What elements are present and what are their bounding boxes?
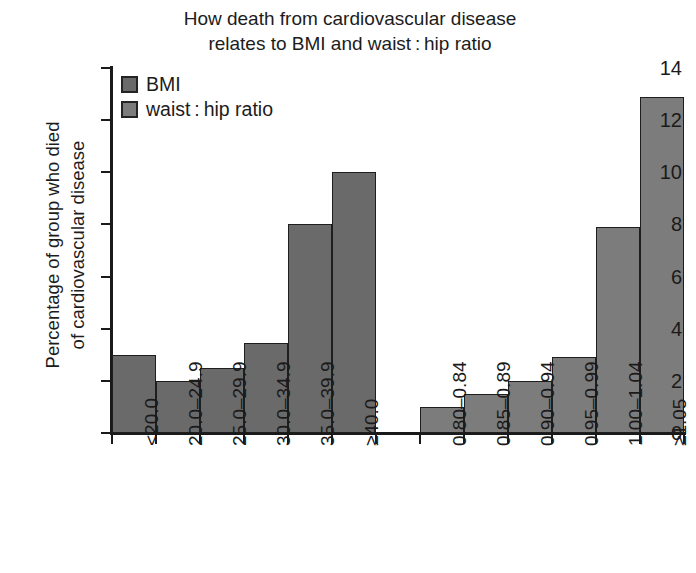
y-axis-tick: [101, 223, 112, 225]
legend-item: BMI: [121, 72, 273, 97]
chart-title: How death from cardiovascular disease re…: [80, 6, 620, 56]
y-axis-title: Percentage of group who died of cardiova…: [40, 45, 90, 445]
y-axis-tick-label: 14: [660, 58, 682, 78]
y-axis-tick-label: 8: [671, 214, 682, 234]
x-axis-tick-label: 30.0–34.9: [274, 361, 293, 446]
x-axis-tick-label: 25.0–29.9: [230, 361, 249, 446]
legend-item: waist : hip ratio: [121, 97, 273, 122]
chart-title-line-2: relates to BMI and waist : hip ratio: [80, 31, 620, 56]
y-axis-tick-label: 10: [660, 162, 682, 182]
y-axis-tick-label: 2: [671, 371, 682, 391]
legend-swatch-icon: [121, 76, 138, 93]
legend-swatch-icon: [121, 101, 138, 118]
x-axis-tick: [111, 433, 113, 444]
legend-label: BMI: [146, 75, 181, 95]
y-axis-tick: [101, 119, 112, 121]
y-axis-tick-label: 12: [660, 110, 682, 130]
legend-label: waist : hip ratio: [146, 100, 273, 120]
y-axis-tick: [101, 328, 112, 330]
x-axis-tick-label: 20.0–24.9: [186, 361, 205, 446]
y-axis-title-line-1: Percentage of group who died: [40, 45, 65, 445]
y-axis-tick-label: 4: [671, 319, 682, 339]
y-axis-tick-label: 6: [671, 267, 682, 287]
y-axis-tick: [101, 171, 112, 173]
chart-figure: How death from cardiovascular disease re…: [0, 0, 696, 573]
y-axis-tick: [101, 67, 112, 69]
x-axis-tick-label: 35.0–39.9: [318, 361, 337, 446]
x-axis-tick-label: ≥1.05: [670, 399, 689, 446]
x-axis-tick-label: <20.0: [142, 398, 161, 446]
bar: [332, 172, 376, 433]
x-axis-tick-label: 0.90–0.94: [538, 361, 557, 446]
x-axis-tick: [419, 433, 421, 444]
chart-title-line-1: How death from cardiovascular disease: [80, 6, 620, 31]
x-axis-tick-label: 1.00–1.04: [626, 361, 645, 446]
y-axis-title-line-2: of cardiovascular disease: [65, 45, 90, 445]
x-axis-tick-label: ≥40.0: [362, 399, 381, 446]
x-axis-tick-label: 0.80–0.84: [450, 361, 469, 446]
chart-legend: BMIwaist : hip ratio: [121, 72, 273, 122]
x-axis-tick-label: 0.85–0.89: [494, 361, 513, 446]
y-axis-tick: [101, 380, 112, 382]
x-axis-tick-label: 0.95–0.99: [582, 361, 601, 446]
y-axis-tick: [101, 276, 112, 278]
